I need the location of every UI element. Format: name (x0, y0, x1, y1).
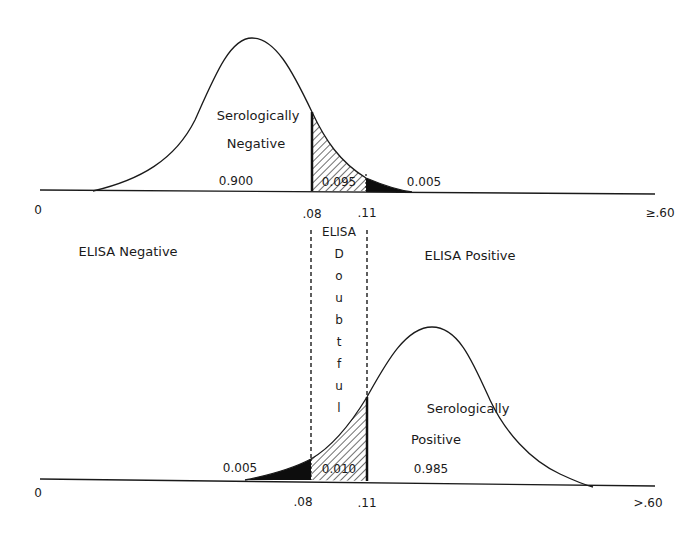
svg-text:f: f (337, 357, 342, 371)
svg-text:o: o (335, 269, 342, 283)
elisa-negative-label: ELISA Negative (78, 244, 177, 259)
bottom-area-positive-value: 0.985 (414, 462, 448, 476)
svg-text:u: u (335, 291, 343, 305)
doubtful-vertical-text: D o u b t f u l (334, 247, 343, 415)
elisa-positive-label: ELISA Positive (425, 248, 516, 263)
top-tick-cutoff-high: .11 (357, 206, 376, 220)
bottom-curve-label-line2: Positive (411, 432, 461, 447)
top-area-negative-value: 0.900 (219, 174, 253, 188)
svg-text:b: b (335, 313, 343, 327)
bottom-area-doubtful-value: 0.010 (322, 462, 356, 476)
top-tick-cutoff-low: .08 (302, 207, 321, 221)
top-area-doubtful-value: 0.095 (322, 175, 356, 189)
top-positive-tail-area (366, 178, 412, 192)
bottom-tick-start: 0 (34, 486, 42, 500)
doubtful-zone-title: ELISA (322, 225, 357, 239)
bottom-tick-end: >.60 (633, 496, 662, 510)
svg-text:l: l (337, 401, 340, 415)
svg-text:u: u (335, 379, 343, 393)
elisa-distribution-diagram: Serologically Negative 0.900 0.095 0.005… (0, 0, 695, 538)
bottom-panel: Serologically Positive 0.985 0.010 0.005… (34, 327, 662, 510)
svg-text:t: t (337, 335, 342, 349)
top-panel: Serologically Negative 0.900 0.095 0.005… (34, 38, 674, 221)
svg-text:D: D (334, 247, 343, 261)
top-curve-label-line1: Serologically (217, 108, 300, 123)
top-tick-start: 0 (34, 203, 42, 217)
bottom-curve-label-line1: Serologically (427, 401, 510, 416)
top-curve-label-line2: Negative (227, 136, 285, 151)
top-tick-end: ≥.60 (645, 206, 674, 220)
bottom-tick-cutoff-high: .11 (357, 496, 376, 510)
bottom-area-negative-value: 0.005 (223, 461, 257, 475)
top-area-positive-value: 0.005 (407, 175, 441, 189)
bottom-tick-cutoff-low: .08 (293, 495, 312, 509)
